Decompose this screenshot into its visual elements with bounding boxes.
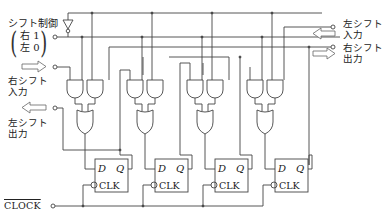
right-shift-output-label-2: 出力 xyxy=(343,53,363,64)
right-shift-input-label-2: 入力 xyxy=(8,86,28,97)
and-gates xyxy=(67,80,283,98)
shift-control-right-value: 右 1 xyxy=(20,30,40,41)
right-shift-output-arrow xyxy=(313,48,335,59)
shift-register-diagram xyxy=(0,0,384,221)
or-gates xyxy=(77,110,273,134)
shift-control-terminal xyxy=(53,35,57,39)
ff4-d-label: D xyxy=(278,163,286,174)
left-shift-input-terminal xyxy=(331,25,335,29)
clock-terminal xyxy=(51,204,55,208)
ff4-q-label: Q xyxy=(296,163,304,174)
ff1-d-label: D xyxy=(98,163,106,174)
left-shift-input-label-2: 入力 xyxy=(343,29,363,40)
ff1-clk-label: CLK xyxy=(99,180,120,191)
left-paren: ( xyxy=(10,28,17,58)
ff1-q-label: Q xyxy=(116,163,124,174)
left-shift-output-label-2: 出力 xyxy=(8,128,28,139)
left-shift-output-label: 左シフト xyxy=(8,117,48,128)
inverter-gate xyxy=(63,13,73,37)
left-shift-input-label: 左シフト xyxy=(343,18,383,29)
ff2-d-label: D xyxy=(158,163,166,174)
ff2-q-label: Q xyxy=(176,163,184,174)
clock-label: CLOCK xyxy=(4,200,41,211)
left-shift-output-terminal xyxy=(53,106,57,110)
right-shift-output-terminal xyxy=(331,45,335,49)
ff3-q-label: Q xyxy=(236,163,244,174)
ff3-d-label: D xyxy=(218,163,226,174)
right-shift-input-label: 右シフト xyxy=(8,75,48,86)
left-shift-output-arrow xyxy=(22,102,46,113)
right-shift-input-terminal xyxy=(53,65,57,69)
right-shift-input-arrow xyxy=(22,61,46,72)
ff4-clk-label: CLK xyxy=(279,180,300,191)
shift-control-left-value: 左 0 xyxy=(20,42,40,53)
right-paren: ) xyxy=(40,28,47,58)
right-shift-output-label: 右シフト xyxy=(343,42,383,53)
ff3-clk-label: CLK xyxy=(219,180,240,191)
ff2-clk-label: CLK xyxy=(159,180,180,191)
